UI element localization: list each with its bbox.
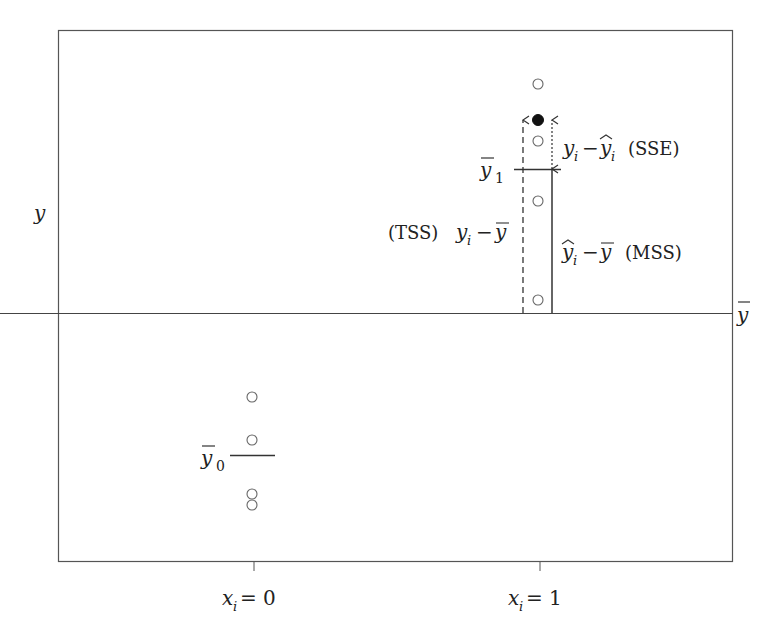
svg-text:i: i xyxy=(573,253,577,268)
mss-label: y i − y (MSS) xyxy=(561,240,682,268)
svg-text:−: − xyxy=(476,220,493,244)
x-tick-label-1: x i = 1 xyxy=(508,586,562,614)
x-tick-label-0: x i = 0 xyxy=(222,586,276,614)
svg-text:= 0: = 0 xyxy=(240,586,276,610)
overall-mean-label: y xyxy=(736,302,750,327)
data-point xyxy=(247,435,257,445)
svg-text:y: y xyxy=(736,303,749,327)
svg-text:i: i xyxy=(611,149,615,164)
svg-text:i: i xyxy=(467,233,471,248)
svg-text:i: i xyxy=(574,149,578,164)
svg-text:i: i xyxy=(233,599,237,614)
svg-text:x: x xyxy=(508,586,519,610)
tss-label: (TSS) y i − y xyxy=(388,220,509,248)
group-1-points xyxy=(533,79,543,305)
svg-text:y: y xyxy=(599,240,612,264)
svg-text:y: y xyxy=(479,158,492,182)
svg-text:0: 0 xyxy=(216,458,225,474)
group-1-mean-label: y 1 xyxy=(479,158,504,186)
data-point xyxy=(533,196,543,206)
data-point xyxy=(533,136,543,146)
data-point xyxy=(533,295,543,305)
svg-text:x: x xyxy=(222,586,233,610)
tss-mss-sse-diagram: y y y 1 y 0 y i − y i (SSE) (TSS) y i − … xyxy=(0,0,782,643)
group-0-points xyxy=(247,392,257,510)
svg-text:i: i xyxy=(519,599,523,614)
y-axis-label: y xyxy=(33,201,46,225)
svg-text:1: 1 xyxy=(495,170,504,186)
data-point xyxy=(247,392,257,402)
svg-text:= 1: = 1 xyxy=(526,586,562,610)
data-point xyxy=(247,500,257,510)
svg-text:(SSE): (SSE) xyxy=(628,138,680,159)
data-point xyxy=(247,489,257,499)
svg-text:(TSS): (TSS) xyxy=(388,222,438,243)
svg-text:−: − xyxy=(582,136,599,160)
sse-label: y i − y i (SSE) xyxy=(562,135,680,164)
highlighted-point xyxy=(533,115,544,126)
svg-text:−: − xyxy=(582,240,599,264)
svg-text:y: y xyxy=(494,220,507,244)
plot-frame xyxy=(59,31,733,562)
svg-text:(MSS): (MSS) xyxy=(625,242,682,263)
data-point xyxy=(533,79,543,89)
group-0-mean-label: y 0 xyxy=(200,446,225,474)
svg-text:y: y xyxy=(200,446,213,470)
